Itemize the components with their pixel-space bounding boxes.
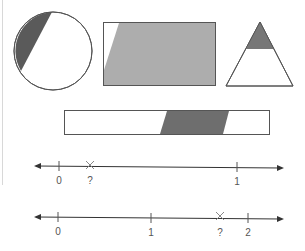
shaded-bar xyxy=(65,111,270,135)
number-line-1-label-0: 0 xyxy=(56,176,62,186)
number-line-2-label-0: 0 xyxy=(55,227,61,237)
number-line-2-label-unknown: ? xyxy=(217,228,223,238)
arrow-left-icon xyxy=(34,214,41,220)
number-line-2-label-2: 2 xyxy=(245,228,251,238)
triangle-shaded-top xyxy=(246,22,274,49)
shaded-rectangle xyxy=(104,23,216,86)
bar-shaded-section xyxy=(160,111,229,134)
number-line-1-label-1: 1 xyxy=(234,177,240,187)
arrow-right-icon xyxy=(277,165,284,171)
number-line-1 xyxy=(34,161,284,172)
rectangle-shaded-region xyxy=(104,23,215,85)
number-line-2 xyxy=(34,212,284,223)
shaded-circle xyxy=(14,12,92,90)
number-line-2-label-1: 1 xyxy=(148,228,154,238)
number-line-1-label-unknown: ? xyxy=(87,176,93,186)
shaded-triangle xyxy=(226,22,293,86)
fraction-diagram xyxy=(0,0,305,251)
arrow-left-icon xyxy=(34,163,41,169)
cross-marker-icon xyxy=(86,161,94,169)
arrow-right-icon xyxy=(277,216,284,222)
